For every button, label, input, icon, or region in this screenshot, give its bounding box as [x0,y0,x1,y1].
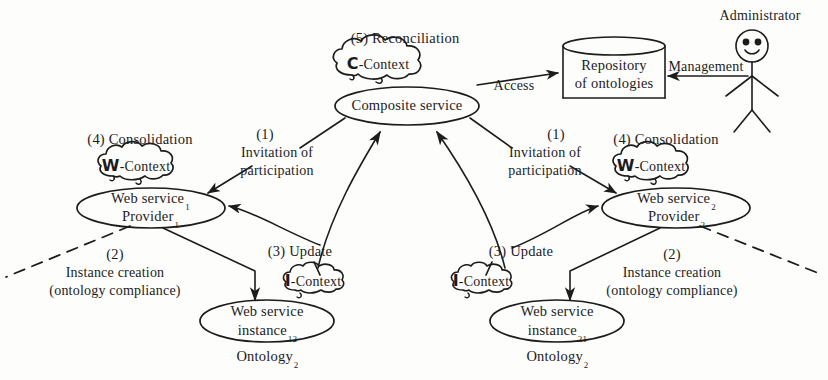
instance-left-text2: instance [238,322,287,338]
administrator-figure-shape [726,30,778,132]
label-management: Management [668,59,743,76]
label-i-context-left: I-Context [285,272,342,291]
label-c-context: C-Context [347,55,410,74]
label-step2-left-number: (2) [106,246,124,263]
label-composite-service: Composite service [352,97,463,114]
composite-right-leg-shape [470,118,512,148]
label-provider-right-line2: Provider2 [648,208,704,228]
provider-left-sub1: 1 [185,202,190,212]
composite-left-leg-shape [300,118,345,148]
provider-right-text1: Web service [637,190,710,206]
label-instance-left-line2: instance12 [238,322,297,342]
w-context-right-symbol: W [617,156,635,175]
label-provider-left-line2: Provider1 [122,208,178,228]
label-step1-left-line1: Invitation of [241,145,313,162]
ontology-left-sub: 2 [294,360,299,370]
ontology-right-sub: 2 [584,360,589,370]
ontology-left-text: Ontology [236,348,292,364]
label-instance-right-line1: Web service [520,303,593,320]
label-step1-right-number: (1) [547,126,565,143]
w-context-left-suffix: -Context [120,159,171,174]
w-context-right-suffix: -Context [635,159,686,174]
label-i-context-right: I-Context [453,272,510,291]
provider-left-text2: Provider [122,208,174,224]
provider-right-text2: Provider [648,208,700,224]
label-step1-left-line2: participation [240,163,313,180]
label-w-context-right: W-Context [617,157,685,176]
provider-right-sub2: 2 [700,220,705,230]
diagram-canvas: (5) Reconciliation C-Context Composite s… [0,0,828,380]
label-step1-right-line2: participation [508,163,581,180]
ontology-right-text: Ontology [526,348,582,364]
label-step3-update-right: (3) Update [489,243,553,260]
label-ontology-right: Ontology2 [526,348,587,368]
label-administrator: Administrator [719,8,800,25]
label-step2-right-line2: (ontology compliance) [606,283,737,300]
label-instance-right-line2: instance21 [528,322,587,342]
instance-right-sub: 21 [578,334,587,344]
label-step1-right-line1: Invitation of [509,145,581,162]
label-step2-left-line2: (ontology compliance) [49,283,180,300]
label-step1-left-number: (1) [256,126,274,143]
label-w-context-left: W-Context [102,157,170,176]
label-access: Access [494,78,535,95]
label-step5-reconciliation: (5) Reconciliation [351,30,460,47]
provider-left-text1: Web service [111,190,184,206]
label-instance-left-line1: Web service [230,303,303,320]
label-provider-right-line1: Web service2 [637,190,715,210]
label-step2-right-line1: Instance creation [623,265,722,282]
c-context-symbol: C [347,54,359,73]
label-repository-line2: of ontologies [575,75,654,92]
label-repository-line1: Repository [581,57,647,74]
provider-left-sub2: 1 [174,220,179,230]
label-provider-left-line1: Web service1 [111,190,189,210]
i-context-left-suffix: -Context [291,274,342,289]
label-step3-update-left: (3) Update [268,243,332,260]
c-context-suffix: -Context [359,57,410,72]
i-context-right-suffix: -Context [459,274,510,289]
instance-right-text2: instance [528,322,577,338]
label-step4-consolidation-left: (4) Consolidation [87,131,192,148]
provider-right-sub1: 2 [711,202,716,212]
label-ontology-left: Ontology2 [236,348,297,368]
w-context-left-symbol: W [102,156,120,175]
label-step2-left-line1: Instance creation [66,265,165,282]
label-step4-consolidation-right: (4) Consolidation [613,131,718,148]
composite-to-left-provider-curve-shape [229,206,320,245]
instance-left-sub: 12 [288,334,297,344]
composite-to-right-provider-curve-shape [512,206,598,248]
label-step2-right-number: (2) [663,246,681,263]
